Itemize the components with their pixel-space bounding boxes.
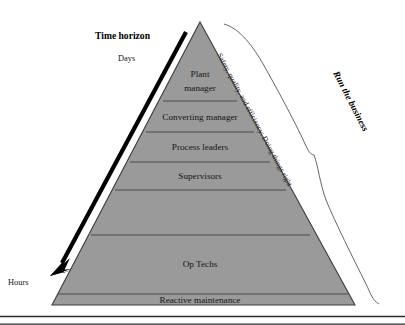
tier-label-process-leaders: Process leaders [172, 142, 229, 152]
run-the-business-tspan: Run the business [331, 68, 371, 133]
tier-label-op-techs: Op Techs [183, 259, 218, 269]
tier-label-plant-manager-line2: manager [184, 83, 216, 93]
time-horizon-title: Time horizon [95, 30, 151, 41]
tier-label-plant-manager-line1: Plant [191, 69, 210, 79]
pyramid-diagram-svg: Plant manager Converting manager Process… [0, 0, 405, 325]
tier-label-reactive-maintenance: Reactive maintenance [160, 295, 241, 305]
pyramid-figure: Plant manager Converting manager Process… [0, 0, 405, 325]
run-the-business-title: Run the business [331, 68, 371, 133]
tier-label-converting-manager: Converting manager [162, 112, 237, 122]
time-horizon-bottom-label: Hours [8, 278, 28, 287]
time-horizon-top-label: Days [118, 54, 135, 63]
tier-label-supervisors: Supervisors [178, 171, 222, 181]
